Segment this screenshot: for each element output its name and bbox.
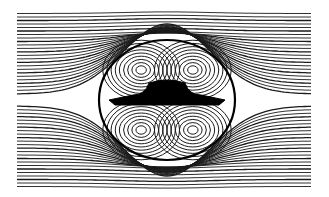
solid-body-shape (109, 80, 225, 105)
flow-streamline-figure (0, 0, 329, 197)
